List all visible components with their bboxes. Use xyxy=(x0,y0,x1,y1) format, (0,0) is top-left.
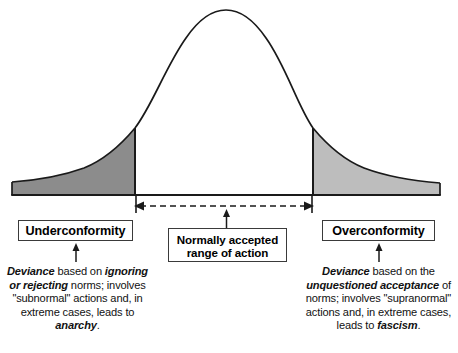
overconformity-description: Deviance based on the unquestioned accep… xyxy=(299,265,458,333)
emphasis-term: anarchy xyxy=(55,319,97,331)
center-callout-arrowhead-icon xyxy=(223,209,230,217)
body-text: . xyxy=(417,319,420,331)
accepted-range-line-1: Normally accepted xyxy=(169,233,286,246)
emphasis-term: Deviance xyxy=(322,265,370,277)
overconformity-label-box: Overconformity xyxy=(322,220,435,241)
emphasis-term: fascism xyxy=(377,319,417,331)
underconformity-label-box: Underconformity xyxy=(18,220,133,241)
body-text: based on the xyxy=(370,265,435,277)
accepted-range-label-box: Normally accepted range of action xyxy=(168,228,287,262)
accepted-range-line-2: range of action xyxy=(169,246,286,259)
emphasis-term: unquestioned acceptance xyxy=(306,279,439,291)
left-callout-arrowhead-icon xyxy=(73,243,80,251)
right-tail-shaded-region xyxy=(313,128,440,195)
emphasis-term: Deviance xyxy=(7,265,55,277)
body-text: . xyxy=(97,319,100,331)
underconformity-description: Deviance based on ignoring or rejecting … xyxy=(6,265,149,333)
overconformity-label-text: Overconformity xyxy=(332,224,424,238)
bell-curve-outline xyxy=(12,10,440,183)
left-tail-shaded-region xyxy=(12,128,135,195)
body-text: based on xyxy=(55,265,105,277)
right-callout-arrowhead-icon xyxy=(376,243,383,251)
normal-distribution-conformity-figure: Underconformity Overconformity Normally … xyxy=(0,0,458,353)
underconformity-label-text: Underconformity xyxy=(26,224,126,238)
